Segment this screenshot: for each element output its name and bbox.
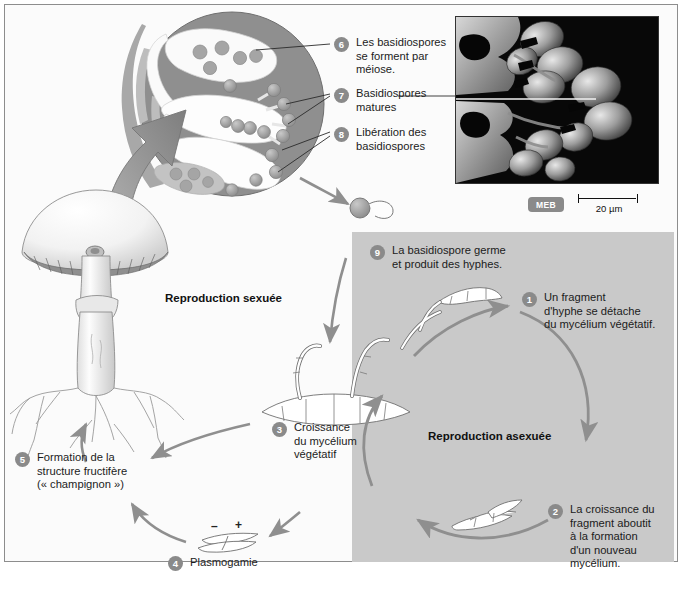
step-6-line1: Les basidiospores (356, 36, 476, 50)
step-label-9: La basidiospore germe et produit des hyp… (392, 244, 572, 271)
step-label-5: Formation de la structure fructifère (« … (37, 451, 162, 492)
step-6-line3: méiose. (356, 63, 476, 77)
step-7-line1: Basidiospores (356, 87, 476, 101)
step-badge-8[interactable]: 8 (334, 127, 349, 142)
step-7-line2: matures (356, 101, 476, 115)
step-8-line2: basidiospores (356, 140, 476, 154)
step-label-6: Les basidiospores se forment par méiose. (356, 36, 476, 77)
step-3-line1: Croissance (294, 421, 394, 435)
figure-canvas: MEB 20 µm 6 Les basidiospores se forment… (0, 0, 686, 593)
step-badge-9[interactable]: 9 (370, 245, 385, 260)
step-8-line1: Libération des (356, 126, 476, 140)
vegetative-mycelium (262, 339, 410, 425)
step-5-line1: Formation de la (37, 451, 162, 465)
new-mycelium-from-fragment (452, 500, 522, 530)
step-5-line2: structure fructifère (37, 465, 162, 479)
mushroom-illustration (10, 190, 184, 462)
section-title-sexual: Reproduction sexuée (165, 292, 282, 304)
step-2-line1: La croissance du (570, 503, 680, 517)
step-4-line1: Plasmogamie (190, 556, 300, 570)
step-3-line3: végétatif (294, 448, 394, 462)
scale-bar-label: 20 µm (576, 202, 642, 214)
step-6-line2: se forment par (356, 50, 476, 64)
step-1-line2: d'hyphe se détache (544, 305, 674, 319)
step-label-3: Croissance du mycélium végétatif (294, 421, 394, 462)
hypha-fragment (438, 288, 502, 305)
step-label-4: Plasmogamie (190, 556, 300, 570)
step-label-8: Libération des basidiospores (356, 126, 476, 153)
step-badge-2[interactable]: 2 (548, 504, 563, 519)
section-title-asexual: Reproduction asexuée (428, 430, 551, 442)
step-badge-1[interactable]: 1 (522, 292, 537, 307)
arrow-spore-release (300, 178, 348, 204)
plasmogamy-hyphae (198, 533, 258, 552)
step-label-2: La croissance du fragment aboutit à la f… (570, 503, 680, 571)
mating-type-plus: + (235, 518, 242, 532)
arrow-spore-to-mycelium (330, 258, 346, 342)
step-badge-3[interactable]: 3 (272, 422, 287, 437)
step-2-line5: mycélium. (570, 557, 680, 571)
sem-micrograph (455, 16, 659, 184)
step-2-line4: d'un nouveau (570, 544, 680, 558)
arrow-mycelium-to-fruiting-body (152, 424, 250, 458)
step-badge-6[interactable]: 6 (334, 37, 349, 52)
step-2-line3: à la formation (570, 530, 680, 544)
step-badge-5[interactable]: 5 (15, 452, 30, 467)
step-1-line1: Un fragment (544, 291, 674, 305)
basidium-magnification-circle (122, 12, 324, 196)
arrow-to-plasmogamy (270, 512, 300, 536)
step-1-line3: du mycélium végétatif. (544, 318, 674, 332)
step-badge-4[interactable]: 4 (168, 556, 183, 571)
step-9-line2: et produit des hyphes. (392, 258, 572, 272)
step-5-line3: (« champignon ») (37, 478, 162, 492)
step-9-line1: La basidiospore germe (392, 244, 572, 258)
mating-type-minus: – (211, 519, 218, 533)
meb-technique-badge: MEB (528, 197, 564, 212)
step-3-line2: du mycélium (294, 435, 394, 449)
step-label-1: Un fragment d'hyphe se détache du mycéli… (544, 291, 674, 332)
step-label-7: Basidiospores matures (356, 87, 476, 114)
scale-bar: 20 µm (576, 194, 642, 214)
arrow-plasmogamy-to-formation (132, 504, 186, 542)
step-2-line2: fragment aboutit (570, 517, 680, 531)
germinating-basidiospore (350, 198, 393, 218)
step-badge-7[interactable]: 7 (334, 88, 349, 103)
